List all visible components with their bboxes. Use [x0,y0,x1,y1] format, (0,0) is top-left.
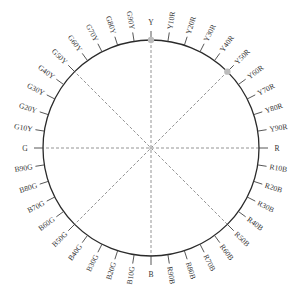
tick-r80b [184,251,187,260]
tick-y20r [184,37,187,46]
label-b10g: B10G [125,265,137,285]
tick-g20y [40,112,49,115]
label-y10r: Y10R [165,10,177,30]
tick-b70g [47,197,55,201]
label-g80y: G80Y [104,15,118,36]
label-y80r: Y80R [264,101,285,115]
label-r20b: R20B [264,181,284,195]
label-r80b: R80B [184,261,198,281]
label-g50y: G50Y [50,47,70,67]
label-r50b: R50B [233,230,252,249]
tick-b30g [98,244,102,252]
tick-g10y [35,130,44,131]
tick-g70y [98,44,102,52]
tick-b90g [35,165,44,166]
tick-b80g [40,181,49,184]
label-y: Y [148,18,154,27]
label-r40b: R40B [245,215,265,233]
tick-b50g [68,224,74,230]
label-y40r: Y40R [218,33,236,54]
label-b20g: B20G [104,260,118,281]
label-r30b: R30B [256,198,276,214]
hue-circle-diagram: YY10RY20RY30RY40RY50RY60RY70RY80RY90RRR1… [0,0,301,300]
label-g70y: G70Y [84,22,101,43]
label-g40y: G40Y [36,63,57,81]
label-g: G [22,144,28,153]
label-b30g: B30G [84,252,100,273]
label-g60y: G60Y [66,33,84,54]
tick-g60y [82,53,87,60]
label-r90b: R90B [165,266,177,285]
tick-b60g [56,211,63,216]
tick-y60r [238,79,245,84]
tick-r10b [258,165,267,166]
label-b70g: B70G [26,198,47,214]
tick-r90b [168,255,169,264]
tick-g90y [133,32,134,41]
label-g20y: G20Y [18,101,39,115]
tick-y10r [168,32,169,41]
dot-y [148,37,154,43]
label-y70r: Y70R [256,81,277,98]
tick-y40r [214,53,219,60]
label-b60g: B60G [37,215,57,233]
label-y90r: Y90R [269,122,289,134]
label-y60r: Y60R [245,63,266,81]
label-r70b: R70B [201,253,217,273]
label-r60b: R60B [218,242,236,262]
tick-r40b [238,211,245,216]
label-g90y: G90Y [125,10,137,30]
tick-y90r [258,130,267,131]
label-b40g: B40G [66,242,84,262]
label-b50g: B50G [50,229,70,249]
label-y20r: Y20R [184,14,198,35]
tick-b40g [82,235,87,242]
tick-g40y [56,79,63,84]
center-point [149,146,152,149]
tick-y30r [200,44,204,52]
tick-g80y [115,37,118,46]
label-g30y: G30Y [25,81,46,98]
tick-r30b [247,197,255,201]
label-y30r: Y30R [201,22,218,43]
tick-r20b [254,181,263,184]
tick-r60b [214,235,219,242]
label-r10b: R10B [269,162,288,174]
label-b80g: B80G [18,181,39,195]
tick-y80r [254,112,263,115]
label-r: R [274,144,280,153]
tick-g30y [47,95,55,99]
label-y50r: Y50R [233,46,253,66]
label-g10y: G10Y [13,122,33,134]
tick-r70b [200,244,204,252]
tick-g50y [68,65,74,71]
tick-y70r [247,95,255,99]
dot-y50r [224,68,230,74]
label-b: B [148,270,153,279]
label-b90g: B90G [14,162,34,174]
tick-b20g [115,251,118,260]
tick-r50b [227,224,233,230]
tick-b10g [133,255,134,264]
